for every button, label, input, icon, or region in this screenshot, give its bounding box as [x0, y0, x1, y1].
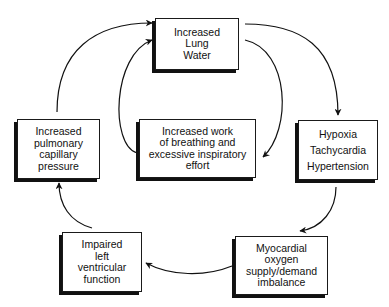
node-myocardial-oxygen-imbalance: Myocardial oxygen supply/demand imbalanc…: [235, 236, 328, 295]
node-text-line: Hypoxia: [319, 126, 357, 142]
node-text-line: Increased: [35, 126, 81, 138]
node-text-line: effort: [186, 160, 210, 172]
node-text-line: Water: [183, 50, 211, 62]
arrow-myocardial-to-lv-function: [146, 263, 232, 274]
node-impaired-left-ventricular-function: Impaired left ventricular function: [62, 232, 142, 292]
node-increased-work-of-breathing: Increased work of breathing and excessiv…: [139, 119, 256, 178]
node-text-line: Impaired: [82, 239, 123, 251]
node-text-line: ventricular: [78, 262, 126, 274]
arrow-lv-function-to-pulmonary-pressure: [59, 183, 92, 228]
arrow-hypoxia-to-myocardial: [300, 187, 336, 231]
node-text-line: Hypertension: [307, 158, 369, 174]
node-text-line: imbalance: [258, 277, 306, 289]
node-increased-lung-water: Increased Lung Water: [155, 18, 239, 70]
node-text-line: capillary: [39, 149, 78, 161]
node-text-line: pressure: [38, 161, 79, 173]
node-text-line: Tachycardia: [310, 142, 366, 158]
arrow-lung-water-to-hypoxia: [245, 24, 338, 115]
node-text-line: oxygen: [265, 254, 299, 266]
node-text-line: function: [84, 274, 121, 286]
node-increased-pulmonary-capillary-pressure: Increased pulmonary capillary pressure: [17, 119, 100, 179]
node-hypoxia-tachycardia-hypertension: Hypoxia Tachycardia Hypertension: [298, 120, 378, 180]
node-text-line: of breathing and: [160, 137, 236, 149]
diagram-canvas: Increased Lung Water Increased pulmonary…: [0, 0, 389, 307]
arrow-pulmonary-pressure-to-lung-water: [57, 23, 152, 112]
